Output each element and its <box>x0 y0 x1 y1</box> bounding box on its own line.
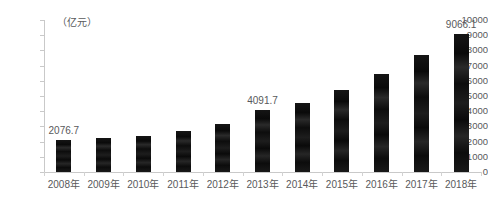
x-category-label: 2014年 <box>286 180 318 190</box>
x-tick-mark <box>84 172 85 176</box>
y-tick-mark <box>40 35 45 36</box>
x-category-label: 2011年 <box>167 180 199 190</box>
bar <box>215 124 230 172</box>
y-tick-mark <box>40 157 45 158</box>
bar-chart: （亿元） 01000200030004000500060007000800090… <box>0 0 488 208</box>
bar <box>255 110 270 172</box>
x-category-label: 2008年 <box>48 180 80 190</box>
x-tick-mark <box>203 172 204 176</box>
x-category-label: 2018年 <box>445 180 477 190</box>
bar-value-label: 2076.7 <box>49 126 80 136</box>
x-tick-mark <box>402 172 403 176</box>
x-category-label: 2010年 <box>127 180 159 190</box>
y-axis-unit-label: （亿元） <box>57 14 97 29</box>
y-tick-mark <box>40 81 45 82</box>
y-tick-mark <box>40 20 45 21</box>
x-tick-mark <box>322 172 323 176</box>
y-tick-mark <box>40 126 45 127</box>
x-tick-mark <box>362 172 363 176</box>
y-tick-mark <box>40 111 45 112</box>
bar <box>454 34 469 172</box>
y-tick-mark <box>40 50 45 51</box>
bar <box>176 131 191 172</box>
y-tick-mark <box>40 142 45 143</box>
x-tick-mark <box>282 172 283 176</box>
x-category-label: 2016年 <box>366 180 398 190</box>
x-axis-line <box>44 172 481 173</box>
y-tick-mark <box>40 96 45 97</box>
x-category-label: 2017年 <box>405 180 437 190</box>
x-tick-mark <box>163 172 164 176</box>
x-category-label: 2015年 <box>326 180 358 190</box>
x-category-label: 2009年 <box>87 180 119 190</box>
bar <box>56 140 71 172</box>
x-tick-mark <box>481 172 482 176</box>
x-tick-mark <box>44 172 45 176</box>
bar <box>414 55 429 172</box>
bar-value-label: 9066.1 <box>446 20 477 30</box>
bar <box>374 74 389 172</box>
bar-value-label: 4091.7 <box>247 96 278 106</box>
x-category-label: 2013年 <box>246 180 278 190</box>
x-tick-mark <box>441 172 442 176</box>
bar <box>295 103 310 172</box>
bar <box>96 138 111 172</box>
x-tick-mark <box>123 172 124 176</box>
y-tick-mark <box>40 66 45 67</box>
x-category-label: 2012年 <box>207 180 239 190</box>
x-tick-mark <box>243 172 244 176</box>
bar <box>136 136 151 172</box>
bar <box>334 90 349 172</box>
